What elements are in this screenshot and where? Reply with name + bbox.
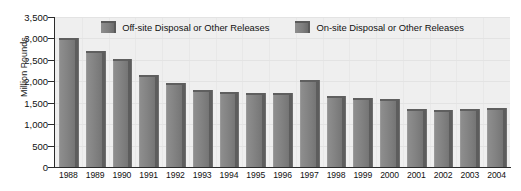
y-axis-tick-mark bbox=[48, 124, 54, 125]
bar-side-face bbox=[128, 59, 131, 167]
vertical-gridline bbox=[82, 17, 83, 167]
vertical-gridline bbox=[242, 17, 243, 167]
y-axis-tick-mark bbox=[48, 17, 54, 18]
vertical-gridline bbox=[349, 17, 350, 167]
x-axis-tick-label: 1990 bbox=[109, 170, 136, 180]
bar-1989 bbox=[86, 51, 105, 167]
x-axis-tick-label: 1999 bbox=[349, 170, 376, 180]
bar-1991 bbox=[139, 75, 158, 167]
bar-side-face bbox=[75, 38, 78, 167]
bar-1990 bbox=[113, 59, 132, 167]
bar-2003 bbox=[460, 109, 479, 167]
gridline bbox=[55, 17, 510, 18]
y-axis-tick-mark bbox=[48, 146, 54, 147]
bar-side-face bbox=[209, 90, 212, 167]
y-axis-tick-label: 3,000 bbox=[14, 33, 48, 44]
x-axis-tick-label: 2003 bbox=[456, 170, 483, 180]
vertical-gridline bbox=[430, 17, 431, 167]
y-axis-tick-label: 500 bbox=[14, 140, 48, 151]
vertical-gridline bbox=[376, 17, 377, 167]
y-axis-tick-mark bbox=[48, 60, 54, 61]
bar-2000 bbox=[380, 99, 399, 167]
y-axis-tick-label: 3,500 bbox=[14, 12, 48, 23]
bar-2002 bbox=[434, 110, 453, 167]
bar-1994 bbox=[220, 92, 239, 167]
vertical-gridline bbox=[323, 17, 324, 167]
vertical-gridline bbox=[403, 17, 404, 167]
bar-chart: Million Pounds 3,5003,0002,5002,0001,500… bbox=[0, 0, 521, 191]
y-axis-tick-mark bbox=[48, 103, 54, 104]
vertical-gridline bbox=[296, 17, 297, 167]
x-axis-tick-label: 2000 bbox=[376, 170, 403, 180]
x-axis-tick-label: 1995 bbox=[242, 170, 269, 180]
y-axis-tick-mark bbox=[48, 81, 54, 82]
vertical-gridline bbox=[269, 17, 270, 167]
bar-side-face bbox=[182, 83, 185, 167]
vertical-gridline bbox=[135, 17, 136, 167]
vertical-gridline bbox=[109, 17, 110, 167]
gridline bbox=[55, 38, 510, 39]
vertical-gridline bbox=[456, 17, 457, 167]
bar-1988 bbox=[59, 38, 78, 167]
bar-2001 bbox=[407, 109, 426, 167]
x-axis-tick-label: 2002 bbox=[430, 170, 457, 180]
bar-side-face bbox=[262, 93, 265, 167]
vertical-gridline bbox=[162, 17, 163, 167]
bar-side-face bbox=[235, 92, 238, 167]
x-axis-tick-label: 1988 bbox=[55, 170, 82, 180]
x-axis-tick-label: 1996 bbox=[269, 170, 296, 180]
bar-1996 bbox=[273, 93, 292, 167]
x-axis-tick-label: 1993 bbox=[189, 170, 216, 180]
x-axis-tick-labels: 1988198919901991199219931994199519961997… bbox=[55, 170, 510, 186]
bar-2004 bbox=[487, 108, 506, 167]
vertical-gridline bbox=[189, 17, 190, 167]
y-axis-tick-mark bbox=[48, 38, 54, 39]
y-axis-tick-label: 0 bbox=[14, 162, 48, 173]
bar-side-face bbox=[423, 109, 426, 167]
x-axis-tick-label: 1994 bbox=[216, 170, 243, 180]
bar-1992 bbox=[166, 83, 185, 167]
bar-side-face bbox=[449, 110, 452, 167]
x-axis-tick-label: 1991 bbox=[135, 170, 162, 180]
bar-side-face bbox=[155, 75, 158, 167]
y-axis-tick-label: 1,000 bbox=[14, 119, 48, 130]
bar-1998 bbox=[327, 96, 346, 167]
x-axis-tick-label: 2004 bbox=[483, 170, 510, 180]
bar-side-face bbox=[396, 99, 399, 167]
bar-1993 bbox=[193, 90, 212, 167]
x-axis-tick-label: 1997 bbox=[296, 170, 323, 180]
bar-side-face bbox=[316, 80, 319, 167]
bar-side-face bbox=[102, 51, 105, 167]
y-axis-tick-label: 2,000 bbox=[14, 76, 48, 87]
bar-side-face bbox=[289, 93, 292, 167]
x-axis-tick-label: 1989 bbox=[82, 170, 109, 180]
y-axis-tick-mark bbox=[48, 167, 54, 168]
x-axis-tick-label: 1998 bbox=[323, 170, 350, 180]
bar-side-face bbox=[342, 96, 345, 167]
bar-side-face bbox=[503, 108, 506, 167]
y-axis-tick-labels: 3,5003,0002,5002,0001,5001,0005000 bbox=[12, 0, 48, 191]
x-axis-tick-label: 2001 bbox=[403, 170, 430, 180]
bar-side-face bbox=[369, 98, 372, 167]
y-axis-line bbox=[54, 17, 55, 168]
bar-1995 bbox=[246, 93, 265, 167]
y-axis-tick-label: 2,500 bbox=[14, 54, 48, 65]
vertical-gridline bbox=[216, 17, 217, 167]
bar-1997 bbox=[300, 80, 319, 167]
bar-1999 bbox=[353, 98, 372, 167]
y-axis-tick-label: 1,500 bbox=[14, 97, 48, 108]
x-axis-line bbox=[54, 167, 511, 168]
vertical-gridline bbox=[483, 17, 484, 167]
plot-area bbox=[55, 17, 510, 167]
bar-side-face bbox=[476, 109, 479, 167]
x-axis-tick-label: 1992 bbox=[162, 170, 189, 180]
